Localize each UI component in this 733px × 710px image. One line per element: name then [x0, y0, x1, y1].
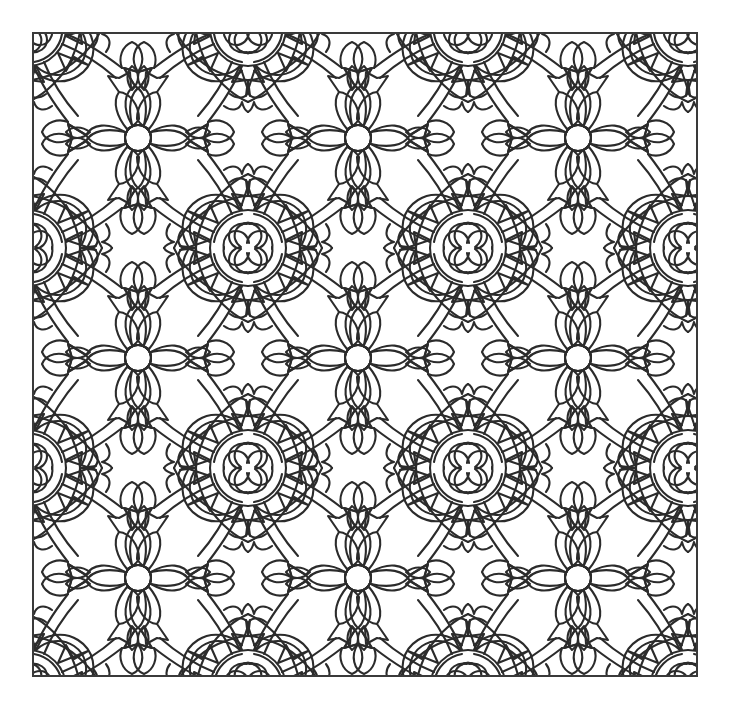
mandala-pattern-artwork: Seamless Floral Mandala Coloring Page De… [0, 0, 733, 710]
coloring-page-canvas: Seamless Floral Mandala Coloring Page De… [0, 0, 733, 710]
artboard: Seamless Floral Mandala Coloring Page De… [0, 0, 733, 710]
pattern-field [33, 33, 697, 676]
